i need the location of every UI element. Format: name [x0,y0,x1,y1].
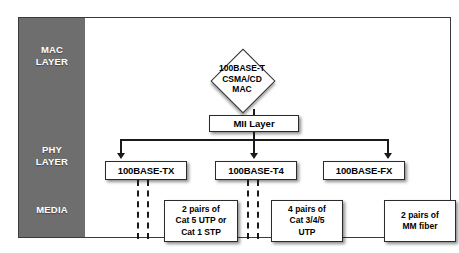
layer-label-media-line1: MEDIA [19,204,85,216]
layer-label-phy: PHY LAYER [19,144,85,167]
layer-label-mac: MAC LAYER [19,44,85,67]
media-connector-t4-line1 [247,180,249,239]
phy-box-100base-fx: 100BASE-FX [323,161,405,180]
media-box-fx: 2 pairs of MM fiber [384,200,456,242]
mac-diamond-text: 100BASE-T CSMA/CD MAC [205,63,279,95]
media-fx-line2: MM fiber [403,221,438,233]
media-t4-line2: Cat 3/4/5 [290,215,325,227]
phy-box-100base-tx: 100BASE-TX [105,161,187,180]
diagram-frame: MAC LAYER PHY LAYER MEDIA 100BASE-T CSMA… [18,17,451,238]
layer-label-phy-line1: PHY [19,144,85,156]
media-box-t4: 4 pairs of Cat 3/4/5 UTP [271,200,343,242]
media-tx-line3: Cat 1 STP [181,227,221,239]
mac-diamond-line3: MAC [205,84,279,95]
arrow-down-icon-t4 [250,153,258,159]
arrow-down-icon-fx [384,153,392,159]
media-connector-tx-line1 [137,180,139,239]
layer-label-mac-line1: MAC [19,44,85,56]
media-t4-line1: 4 pairs of [288,204,326,216]
media-fx-line1: 2 pairs of [401,210,439,222]
connector-drop-t4 [253,139,255,154]
media-box-tx: 2 pairs of Cat 5 UTP or Cat 1 STP [164,200,238,242]
layer-label-media: MEDIA [19,204,85,216]
mac-diamond-line1: 100BASE-T [205,63,279,74]
layer-label-mac-line2: LAYER [19,56,85,68]
arrow-down-icon-tx [117,153,125,159]
phy-box-100base-t4: 100BASE-T4 [215,161,297,180]
connector-drop-fx [387,139,389,154]
mac-diamond-line2: CSMA/CD [205,74,279,85]
media-tx-line2: Cat 5 UTP or [176,215,227,227]
mii-layer-box: MII Layer [209,115,299,132]
mac-diamond-block: 100BASE-T CSMA/CD MAC [211,49,273,111]
media-connector-tx-line2 [147,180,149,239]
layer-band: MAC LAYER PHY LAYER MEDIA [19,18,85,237]
media-t4-line3: UTP [299,227,316,239]
mii-layer-label: MII Layer [233,118,274,129]
phy-label-t4: 100BASE-T4 [228,165,284,176]
layer-label-phy-line2: LAYER [19,156,85,168]
phy-label-tx: 100BASE-TX [118,165,175,176]
media-tx-line1: 2 pairs of [182,204,220,216]
media-connector-t4-line2 [257,180,259,239]
phy-label-fx: 100BASE-FX [336,165,393,176]
connector-drop-tx [120,139,122,154]
